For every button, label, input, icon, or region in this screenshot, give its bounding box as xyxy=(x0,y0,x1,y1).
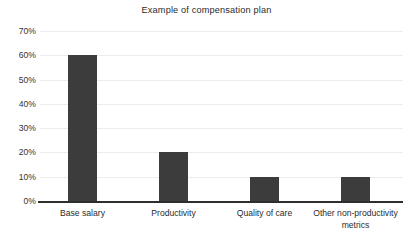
y-tick-label: 70% xyxy=(2,26,36,36)
plot-area xyxy=(40,31,403,201)
bar-base-salary xyxy=(68,55,97,201)
x-axis-line xyxy=(38,201,403,203)
y-tick-label: 20% xyxy=(2,147,36,157)
y-tick-label: 50% xyxy=(2,75,36,85)
x-axis: Base salary Productivity Quality of care… xyxy=(40,205,403,246)
x-tick-label-other-non-productivity-metrics: Other non-productivity metrics xyxy=(304,208,408,231)
y-tick-label: 60% xyxy=(2,50,36,60)
y-tick-label: 40% xyxy=(2,99,36,109)
x-tick-label-base-salary: Base salary xyxy=(31,208,135,220)
x-tick-label-quality-of-care: Quality of care xyxy=(213,208,317,220)
y-tick-label: 30% xyxy=(2,123,36,133)
gridline xyxy=(40,31,403,32)
bar-quality-of-care xyxy=(250,177,279,201)
y-tick-label: 10% xyxy=(2,172,36,182)
bar-other-non-productivity-metrics xyxy=(341,177,370,201)
x-tick-label-productivity: Productivity xyxy=(122,208,226,220)
chart-title: Example of compensation plan xyxy=(0,5,413,15)
bar-productivity xyxy=(159,152,188,201)
bar-chart: Example of compensation plan 70% 60% 50%… xyxy=(0,0,413,246)
y-tick-label: 0% xyxy=(2,196,36,206)
